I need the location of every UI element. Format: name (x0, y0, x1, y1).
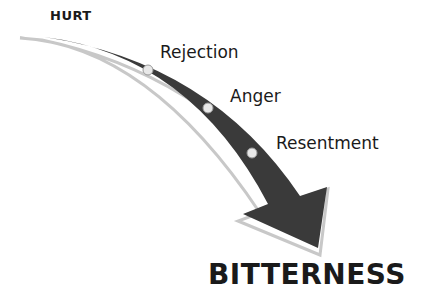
stage-label-resentment: Resentment (276, 133, 379, 153)
start-label: HURT (50, 8, 92, 23)
stage-dot-2 (203, 103, 213, 113)
stage-label-anger: Anger (230, 86, 281, 106)
stage-dot-3 (247, 148, 257, 158)
stage-dot-1 (143, 65, 153, 75)
end-label: BITTERNESS (208, 258, 406, 291)
stage-label-rejection: Rejection (160, 42, 239, 62)
